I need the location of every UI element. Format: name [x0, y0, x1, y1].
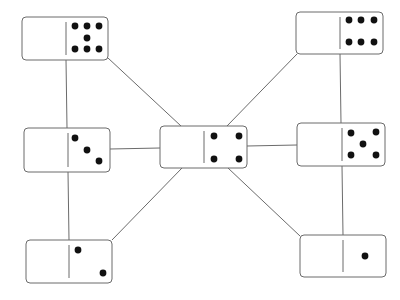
connector-top-left-center	[108, 58, 181, 126]
domino-diagram	[0, 0, 400, 300]
connector-middle-right-bottom-right	[342, 166, 343, 235]
connector-center-middle-right	[247, 145, 297, 146]
domino-center	[160, 126, 247, 168]
pips-1	[362, 253, 369, 260]
connector-top-left-middle-left	[66, 60, 67, 128]
domino-bottom-left	[26, 240, 112, 283]
connector-top-right-center	[227, 54, 297, 126]
domino-middle-left	[24, 128, 110, 172]
domino-top-right	[296, 12, 383, 54]
domino-middle-right	[297, 123, 385, 166]
domino-top-left	[22, 17, 108, 60]
connector-bottom-left-center	[112, 168, 182, 240]
connector-middle-left-center	[110, 148, 160, 149]
connector-top-right-middle-right	[340, 54, 341, 123]
domino-bottom-right	[300, 235, 386, 277]
connector-middle-left-bottom-left	[68, 172, 69, 240]
connector-bottom-right-center	[228, 168, 300, 236]
